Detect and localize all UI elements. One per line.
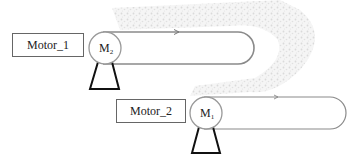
- belt-top: [103, 30, 254, 65]
- motor-bottom[interactable]: M1: [190, 97, 222, 153]
- motor-symbol: M: [200, 106, 211, 120]
- motor-stand-icon: [192, 127, 220, 153]
- motor-top[interactable]: M2: [89, 32, 121, 89]
- motor-1-label[interactable]: Motor_1: [12, 33, 84, 57]
- motor-subscript: 1: [211, 113, 215, 121]
- motor-stand-icon: [90, 62, 119, 89]
- motor-subscript: 2: [110, 48, 114, 56]
- conveyor-diagram: M2 M1 Motor_1 Motor_2: [0, 0, 350, 163]
- belt-bottom: [204, 95, 346, 129]
- diagram-canvas: M2 M1: [0, 0, 350, 163]
- motor-symbol: M: [99, 41, 110, 55]
- motor-2-label[interactable]: Motor_2: [116, 99, 186, 123]
- background-texture: [112, 0, 315, 96]
